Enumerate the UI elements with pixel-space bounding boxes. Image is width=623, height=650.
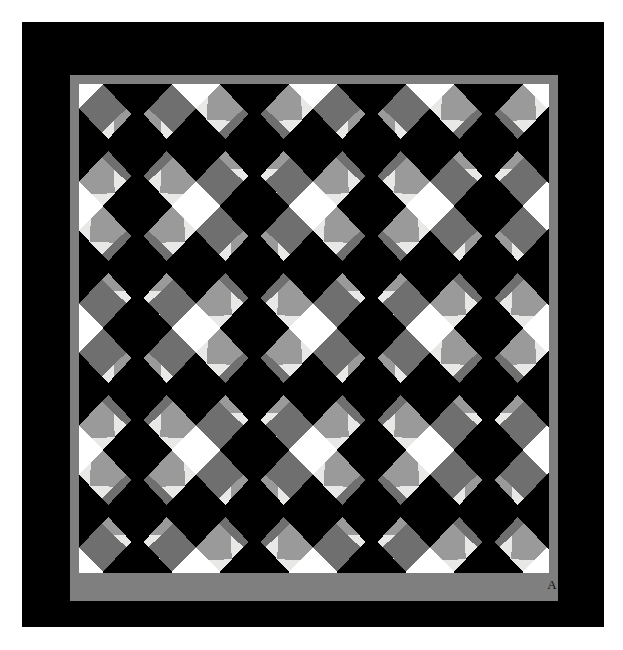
lattice-diamond-pattern xyxy=(79,84,549,573)
quilt-pattern-area xyxy=(79,84,549,573)
photo-black-field: A xyxy=(22,22,604,627)
quilt-sashing-frame: A xyxy=(70,75,558,601)
artwork-page: A xyxy=(0,0,623,650)
quilt-signature-letter: A xyxy=(541,575,563,595)
